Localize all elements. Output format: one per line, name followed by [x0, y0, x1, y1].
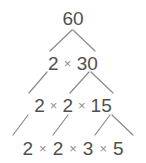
multiply-icon: ×: [45, 99, 63, 112]
factor-tree-diagram: 60 2×30 2×2×15 2×2×3×5: [0, 0, 146, 163]
tree-edge-2-to-2-2: [29, 72, 47, 93]
node-60: 60: [62, 9, 83, 28]
tree-level-1: 60: [0, 9, 146, 28]
multiply-icon: ×: [63, 142, 83, 155]
node-2-l4-a: 2: [22, 139, 33, 158]
tree-edge-2-to-2-5: [13, 115, 28, 135]
multiply-icon: ×: [33, 142, 53, 155]
node-15: 15: [91, 96, 112, 115]
node-3: 3: [83, 139, 94, 158]
tree-level-2: 2×30: [0, 54, 146, 73]
node-2-l3-b: 2: [62, 96, 73, 115]
multiply-icon: ×: [73, 99, 91, 112]
tree-edge-15-to-5-8: [112, 115, 133, 135]
node-30: 30: [77, 54, 98, 73]
multiply-icon: ×: [93, 142, 113, 155]
tree-level-3: 2×2×15: [0, 96, 146, 115]
tree-edge-30-to-2-3: [70, 72, 89, 93]
tree-level-4: 2×2×3×5: [0, 139, 146, 158]
node-2-l3-a: 2: [34, 96, 45, 115]
tree-edge-30-to-15-4: [91, 72, 113, 93]
tree-edge-60-to-30-1: [73, 30, 95, 51]
node-2-l2: 2: [48, 54, 59, 73]
tree-edge-2-to-2-6: [53, 115, 68, 135]
node-2-l4-b: 2: [53, 139, 64, 158]
tree-edge-15-to-3-7: [95, 115, 110, 135]
multiply-icon: ×: [59, 57, 77, 70]
node-5: 5: [113, 139, 124, 158]
tree-edge-60-to-2-0: [50, 30, 72, 51]
